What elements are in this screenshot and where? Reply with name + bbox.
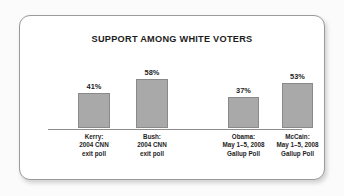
bar-rect	[78, 93, 110, 128]
bar-caption-line: 2004 CNN	[116, 141, 188, 150]
bar-caption-line: Bush:	[116, 133, 188, 142]
bar-caption-line: Gallup Poll	[262, 150, 334, 159]
bar-caption-line: exit poll	[116, 150, 188, 159]
bar-caption: McCain:May 1–5, 2008Gallup Poll	[262, 133, 334, 159]
bar-caption-line: McCain:	[262, 133, 334, 142]
bar-value-label: 37%	[217, 86, 271, 95]
bar-rect	[282, 83, 313, 129]
bar-value-label: 58%	[125, 68, 179, 77]
bar-caption: Bush:2004 CNNexit poll	[116, 133, 188, 159]
plot-area: 41%Kerry:2004 CNNexit poll58%Bush:2004 C…	[20, 16, 324, 179]
bar-value-label: 41%	[67, 82, 121, 91]
chart-card: SUPPORT AMONG WHITE VOTERS 41%Kerry:2004…	[19, 15, 325, 180]
bar-rect	[228, 97, 259, 129]
axis-baseline	[48, 129, 302, 130]
bar-caption-line: May 1–5, 2008	[262, 141, 334, 150]
bar-value-label: 53%	[271, 72, 325, 81]
bar-rect	[136, 79, 168, 129]
